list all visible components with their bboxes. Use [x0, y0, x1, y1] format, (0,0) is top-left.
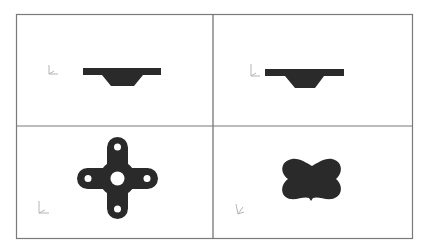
center-hole	[111, 172, 125, 186]
viewport-top-right[interactable]	[251, 64, 344, 88]
axis-triad-icon	[251, 64, 260, 76]
axis-triad-icon	[39, 201, 49, 213]
cross-plate-with-holes	[77, 137, 158, 219]
viewport-bottom-right[interactable]	[236, 159, 341, 214]
x-shaped-plate	[282, 159, 341, 201]
flange-profile-front	[83, 68, 161, 86]
hole-right	[144, 175, 151, 182]
viewport-grid	[0, 0, 425, 252]
flange-profile-side	[265, 69, 344, 88]
hole-bottom	[114, 206, 121, 213]
viewport-top-left[interactable]	[49, 65, 161, 86]
axis-triad-icon	[49, 65, 58, 74]
viewport-bottom-left[interactable]	[39, 137, 158, 219]
axis-triad-icon	[236, 204, 244, 214]
hole-left	[85, 175, 92, 182]
hole-top	[114, 144, 121, 151]
